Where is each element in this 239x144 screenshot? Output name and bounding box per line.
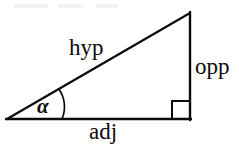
- opposite-label: opp: [195, 55, 230, 78]
- hypotenuse-label: hyp: [69, 36, 104, 59]
- angle-arc: [59, 89, 65, 120]
- hypotenuse-line: [7, 13, 190, 119]
- triangle-figure: hyp opp adj α: [0, 0, 239, 144]
- angle-alpha-label: α: [37, 96, 49, 117]
- right-angle-marker: [172, 101, 190, 119]
- adjacent-label: adj: [89, 120, 117, 143]
